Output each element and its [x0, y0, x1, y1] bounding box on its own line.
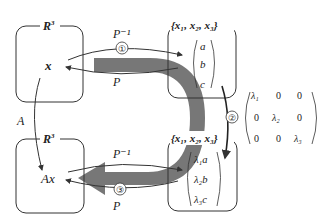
label-p-bottom: P — [112, 199, 121, 213]
coord-a: a — [200, 40, 206, 52]
label-p-inverse-bottom: P⁻¹ — [112, 147, 131, 161]
svg-text:λ₁: λ₁ — [250, 90, 259, 101]
step-1-label: ① — [118, 44, 126, 54]
svg-text:0: 0 — [276, 133, 281, 144]
svg-text:λ₃: λ₃ — [293, 133, 302, 144]
svg-text:0: 0 — [254, 133, 259, 144]
label-p-top: P — [112, 75, 121, 89]
coord-l3c: λ₃c — [193, 194, 207, 205]
basis-bottom-right: {x₁, x₂, x₃} — [171, 132, 218, 144]
vector-x: x — [44, 58, 52, 73]
basis-top-right: {x₁, x₂, x₃} — [171, 19, 218, 31]
arrow-left-down — [34, 78, 42, 170]
label-a: A — [16, 114, 25, 128]
diagonal-matrix: λ₁ 0 0 0 λ₂ 0 0 0 λ₃ — [250, 90, 302, 144]
svg-text:0: 0 — [254, 112, 259, 123]
diagram-canvas: R3 x R3 Ax {x₁, x₂, x₃} a b c {x₁, x₂, x… — [0, 0, 325, 223]
svg-text:λ₂: λ₂ — [271, 112, 280, 123]
coord-c: c — [200, 78, 205, 90]
coord-l2b: λ₂b — [193, 174, 207, 185]
coord-b: b — [200, 58, 206, 70]
step-3-label: ③ — [116, 185, 124, 195]
big-curved-arrow — [78, 58, 205, 195]
svg-text:0: 0 — [297, 90, 302, 101]
svg-text:0: 0 — [297, 112, 302, 123]
vector-ax: Ax — [40, 171, 55, 186]
svg-text:0: 0 — [276, 90, 281, 101]
step-2-label: ② — [228, 113, 236, 123]
label-p-inverse-top: P⁻¹ — [112, 27, 131, 41]
coord-l1a: λ₁a — [193, 154, 207, 165]
